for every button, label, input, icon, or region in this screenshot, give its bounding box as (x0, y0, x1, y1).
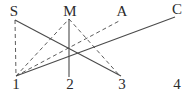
node-label-m: M (63, 4, 76, 19)
edge-1-to-M (16, 19, 69, 76)
diagram-svg (0, 0, 189, 98)
node-label-s: S (10, 4, 18, 19)
diagram-canvas: SMAC1234 (0, 0, 189, 98)
node-label-2: 2 (66, 77, 74, 92)
node-label-c: C (172, 2, 182, 17)
edge-1-to-C (16, 17, 175, 76)
node-label-4: 4 (173, 77, 181, 92)
node-label-a: A (117, 4, 128, 19)
edge-S-to-1 (15, 20, 16, 76)
edge-layer (15, 17, 175, 77)
node-label-3: 3 (118, 77, 126, 92)
edge-M-to-3 (69, 19, 120, 76)
node-label-1: 1 (12, 77, 20, 92)
